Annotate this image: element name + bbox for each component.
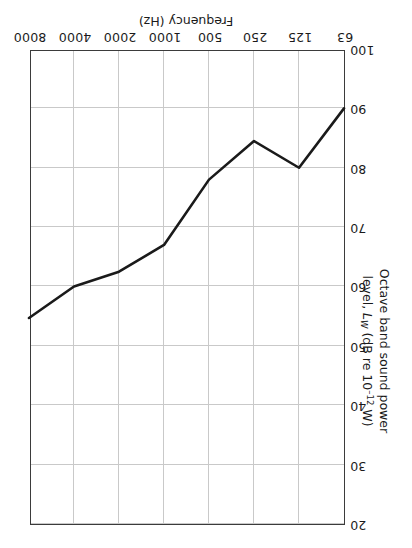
xtick-label: 8000: [0, 31, 60, 44]
x-axis-title: Frequency (Hz): [16, 14, 356, 28]
y-axis-title-line2-pre: level,: [360, 275, 375, 313]
data-series-line: [29, 49, 344, 524]
ytick-label: 80: [350, 162, 390, 175]
plot-area: [30, 50, 345, 525]
y-axis-title-wrap: Octave band sound power level, LW (dB re…: [348, 251, 392, 451]
ytick-label: 90: [350, 103, 390, 116]
ytick-label: 70: [350, 222, 390, 235]
y-axis-title-line2-mid: (dB re 10: [360, 328, 375, 390]
y-axis-title-superscript: –12: [365, 390, 375, 405]
y-axis-title: Octave band sound power level, LW (dB re…: [356, 251, 392, 451]
ytick-label: 20: [350, 519, 390, 532]
chart-figure: 20 30 40 50 60 70 80 90 100 63 125 250 5…: [0, 0, 412, 548]
y-axis-title-line1: Octave band sound power: [377, 269, 392, 433]
ytick-label: 100: [350, 44, 390, 57]
figure-rotator: 20 30 40 50 60 70 80 90 100 63 125 250 5…: [0, 0, 412, 548]
y-axis-title-line2-post: W): [360, 405, 375, 426]
ytick-label: 30: [350, 459, 390, 472]
